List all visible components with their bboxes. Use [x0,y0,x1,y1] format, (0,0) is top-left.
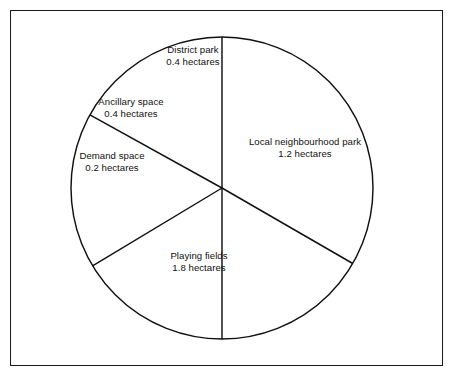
slice-label-district-park: District park 0.4 hectares [141,44,245,69]
screenshot-root: District park 0.4 hectares Ancillary spa… [0,0,454,373]
slice-label-ancillary-space-name: Ancillary space [76,96,186,108]
slice-label-district-park-value: 0.4 hectares [141,56,245,68]
slice-label-ancillary-space: Ancillary space 0.4 hectares [76,96,186,121]
slice-label-demand-space-name: Demand space [57,150,167,162]
slice-label-local-neighbourhood-park-value: 1.2 hectares [226,148,384,160]
slice-label-playing-fields: Playing fields 1.8 hectares [126,250,272,275]
slice-label-playing-fields-name: Playing fields [126,250,272,262]
slice-label-ancillary-space-value: 0.4 hectares [76,108,186,120]
slice-label-district-park-name: District park [141,44,245,56]
slice-label-demand-space-value: 0.2 hectares [57,162,167,174]
slice-label-demand-space: Demand space 0.2 hectares [57,150,167,175]
slice-label-local-neighbourhood-park-name: Local neighbourhood park [226,136,384,148]
slice-label-local-neighbourhood-park: Local neighbourhood park 1.2 hectares [226,136,384,161]
slice-label-playing-fields-value: 1.8 hectares [126,262,272,274]
